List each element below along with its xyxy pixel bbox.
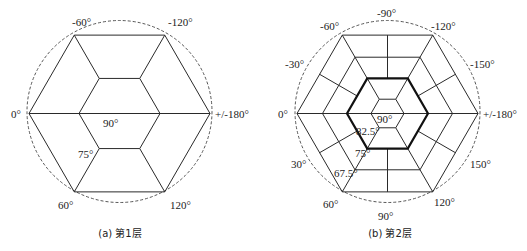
angle-label: 67.5° [334,167,358,179]
angle-label: 30° [291,158,306,170]
angle-label: 0° [278,108,288,120]
radial-edge-inner [367,78,379,99]
radial-edge [140,149,165,192]
angle-label: -90° [377,7,396,19]
radial-edge [140,35,165,78]
caption-layer-1: (a) 第1层 [98,227,141,239]
layer-diagrams: -60°-120°0°+/-180°60°120°90°75° -90°-60°… [0,0,527,251]
angle-label: 120° [170,199,191,211]
angle-label: -60° [72,16,91,28]
trapezoid-divider [418,131,456,153]
angle-label: 60° [323,198,338,210]
angle-label: 75° [355,147,370,159]
trapezoid-divider [418,74,456,96]
angle-label: 75° [78,148,93,160]
angle-label: 120° [434,196,455,208]
boundary-circle [27,21,212,203]
angle-label: +/-180° [215,108,249,120]
figure-layer-2: -90°-60°-120°-30°-150°0°+/-180°30°150°60… [278,7,517,222]
angle-label: 150° [470,158,491,170]
angle-label: -30° [285,58,304,70]
angle-label: 0° [11,108,21,120]
angle-label: +/-180° [483,108,517,120]
angle-label: -60° [320,20,339,32]
angle-label: 82.5° [356,125,380,137]
angle-label: -150° [470,58,495,70]
angle-label: -120° [168,16,193,28]
angle-label: 60° [58,199,73,211]
angle-label: 90° [378,210,393,222]
radial-edge-inner [396,78,408,99]
trapezoid-divider [320,74,358,96]
trapezoid-divider [320,131,358,153]
angle-label: 90° [103,117,118,129]
radial-edge-inner [396,128,408,149]
radial-edge [74,35,99,78]
figure-layer-1: -60°-120°0°+/-180°60°120°90°75° [11,16,249,211]
angle-label: 90° [377,113,392,125]
angle-label: -120° [431,20,456,32]
caption-layer-2: (b) 第2层 [368,227,412,239]
